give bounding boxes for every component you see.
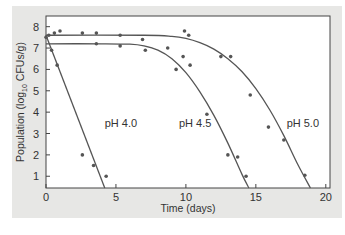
data-point-ph-4-5 xyxy=(95,42,99,46)
series-label-ph-4-5: pH 4.5 xyxy=(179,117,211,129)
data-point-ph-5-0 xyxy=(303,173,307,177)
data-point-ph-4-0 xyxy=(92,164,96,168)
y-tick-label: 6 xyxy=(33,63,39,75)
data-point-ph-4-5 xyxy=(174,68,178,72)
y-tick-label: 5 xyxy=(33,85,39,97)
x-tick-label: 0 xyxy=(43,191,49,203)
y-tick-label: 7 xyxy=(33,42,39,54)
y-axis-label: Population (log10 CFUs/g) xyxy=(14,42,28,162)
y-tick-label: 4 xyxy=(33,106,39,118)
data-point-ph-4-0 xyxy=(81,153,85,157)
data-point-ph-5-0 xyxy=(282,138,286,142)
data-point-ph-4-5 xyxy=(205,112,209,116)
series-label-ph-5-0: pH 5.0 xyxy=(287,117,319,129)
data-point-ph-5-0 xyxy=(141,38,145,42)
data-point-ph-4-5 xyxy=(226,153,230,157)
data-point-ph-4-0 xyxy=(55,63,59,67)
data-point-ph-5-0 xyxy=(248,93,252,97)
y-tick-label: 3 xyxy=(33,128,39,140)
data-point-ph-5-0 xyxy=(219,55,223,59)
data-point-ph-5-0 xyxy=(58,29,62,33)
series-label-ph-4-0: pH 4.0 xyxy=(105,117,137,129)
data-point-ph-5-0 xyxy=(183,29,187,33)
data-point-ph-4-5 xyxy=(188,63,192,67)
x-tick-label: 20 xyxy=(320,191,332,203)
data-point-ph-5-0 xyxy=(187,33,191,37)
data-point-ph-5-0 xyxy=(267,125,271,129)
plot-area xyxy=(46,16,330,188)
data-point-ph-4-5 xyxy=(244,174,248,178)
data-point-ph-5-0 xyxy=(95,31,99,35)
data-point-ph-5-0 xyxy=(229,55,233,59)
data-point-ph-4-5 xyxy=(181,55,185,59)
data-point-ph-4-0 xyxy=(104,174,108,178)
x-tick-label: 15 xyxy=(250,191,262,203)
data-point-ph-5-0 xyxy=(81,31,85,35)
x-axis-label: Time (days) xyxy=(160,202,215,214)
y-tick-label: 2 xyxy=(33,149,39,161)
y-tick-label: 1 xyxy=(33,170,39,182)
data-point-ph-4-5 xyxy=(118,44,122,48)
x-tick-label: 5 xyxy=(113,191,119,203)
y-tick-label: 8 xyxy=(33,21,39,33)
chart: 12345678 05101520 pH 4.0pH 4.5pH 5.0 Tim… xyxy=(0,0,345,235)
data-point-ph-4-0 xyxy=(50,48,54,52)
data-point-ph-4-5 xyxy=(236,155,240,159)
data-point-ph-5-0 xyxy=(118,33,122,37)
data-point-ph-4-5 xyxy=(166,46,170,50)
data-point-ph-4-5 xyxy=(144,48,148,52)
data-point-ph-5-0 xyxy=(47,33,51,37)
data-point-ph-5-0 xyxy=(53,31,57,35)
